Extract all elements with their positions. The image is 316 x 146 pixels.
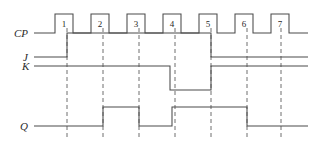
pulse-number-2: 2 xyxy=(98,19,103,29)
waveforms-group xyxy=(34,14,308,126)
signal-labels-group: CP J K Q xyxy=(14,27,30,132)
pulse-number-3: 3 xyxy=(134,19,139,29)
signal-label-q: Q xyxy=(20,120,28,132)
waveform-j xyxy=(34,33,308,57)
waveform-q xyxy=(34,107,308,126)
signal-label-cp: CP xyxy=(14,27,28,39)
pulse-number-1: 1 xyxy=(62,19,67,29)
pulse-number-6: 6 xyxy=(242,19,247,29)
jk-flipflop-timing-diagram: CP J K Q 1 2 3 4 5 6 7 xyxy=(0,0,316,146)
pulse-number-4: 4 xyxy=(170,19,175,29)
gridlines-group xyxy=(67,28,281,140)
pulse-number-5: 5 xyxy=(206,19,211,29)
pulse-number-7: 7 xyxy=(278,19,283,29)
pulse-numbers-group: 1 2 3 4 5 6 7 xyxy=(62,19,283,29)
timing-diagram-canvas: CP J K Q 1 2 3 4 5 6 7 xyxy=(0,0,316,146)
waveform-k xyxy=(34,66,308,90)
signal-label-k: K xyxy=(21,60,30,72)
